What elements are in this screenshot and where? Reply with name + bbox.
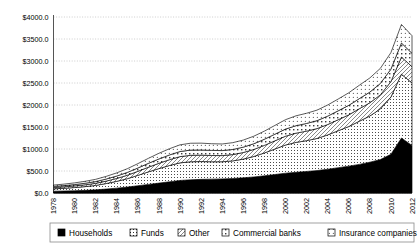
legend-swatch bbox=[58, 229, 65, 236]
y-axis-tick-label: $1500.0 bbox=[23, 123, 49, 132]
area-bands bbox=[54, 24, 413, 193]
y-axis-tick-label: $2500.0 bbox=[23, 79, 49, 88]
x-axis-tick-label: 1980 bbox=[70, 198, 79, 214]
y-axis-tick-labels: $0.0$500.0$1000.0$1500.0$2000.0$2500.0$3… bbox=[23, 13, 49, 198]
x-axis-tick-label: 1984 bbox=[112, 198, 121, 214]
stacked-area-chart: $0.0$500.0$1000.0$1500.0$2000.0$2500.0$3… bbox=[0, 0, 418, 250]
y-axis-tick-label: $3500.0 bbox=[23, 35, 49, 44]
x-axis-tick-label: 2008 bbox=[365, 198, 374, 214]
x-axis-tick-label: 1978 bbox=[49, 198, 58, 214]
legend-item-label: Other bbox=[189, 229, 210, 238]
x-axis-tick-label: 1998 bbox=[260, 198, 269, 214]
chart-legend: HouseholdsFundsOtherCommercial banksInsu… bbox=[50, 223, 417, 242]
legend-item-label: Households bbox=[69, 229, 112, 238]
x-axis-tick-label: 1996 bbox=[239, 198, 248, 214]
legend-item-label: Funds bbox=[141, 229, 164, 238]
y-axis-tick-label: $3000.0 bbox=[23, 57, 49, 66]
x-axis-tick-label: 2002 bbox=[302, 198, 311, 214]
x-axis-tick-label: 1992 bbox=[197, 198, 206, 214]
legend-item-label: Insurance companies bbox=[339, 229, 417, 238]
legend-swatch bbox=[178, 229, 185, 236]
x-axis-tick-label: 1988 bbox=[155, 198, 164, 214]
x-axis-tick-label: 1986 bbox=[133, 198, 142, 214]
y-axis-tick-label: $2000.0 bbox=[23, 101, 49, 110]
y-axis-tick-label: $1000.0 bbox=[23, 145, 49, 154]
x-axis-tick-label: 2004 bbox=[323, 198, 332, 214]
x-axis-tick-label: 2006 bbox=[344, 198, 353, 214]
legend-swatch bbox=[130, 229, 137, 236]
y-axis-tick-label: $500.0 bbox=[27, 167, 49, 176]
legend-swatch bbox=[222, 229, 229, 236]
legend-item[interactable]: Insurance companies bbox=[328, 229, 417, 238]
x-axis-tick-label: 2010 bbox=[387, 198, 396, 214]
x-axis-tick-label: 1990 bbox=[176, 198, 185, 214]
legend-item-label: Commercial banks bbox=[233, 229, 301, 238]
chart-canvas: $0.0$500.0$1000.0$1500.0$2000.0$2500.0$3… bbox=[0, 0, 418, 250]
y-axis-tick-label: $0.0 bbox=[35, 189, 49, 198]
x-axis-tick-label: 2000 bbox=[281, 198, 290, 214]
legend-swatch bbox=[328, 229, 335, 236]
legend-item[interactable]: Commercial banks bbox=[222, 229, 301, 238]
y-axis-tick-label: $4000.0 bbox=[23, 13, 49, 22]
legend-item[interactable]: Funds bbox=[130, 229, 164, 238]
x-axis-tick-labels: 1978198019821984198619881990199219941996… bbox=[49, 198, 417, 214]
legend-item[interactable]: Other bbox=[178, 229, 210, 238]
x-axis-tick-label: 1994 bbox=[218, 198, 227, 214]
x-axis-tick-label: 2012 bbox=[408, 198, 417, 214]
x-axis-tick-label: 1982 bbox=[91, 198, 100, 214]
